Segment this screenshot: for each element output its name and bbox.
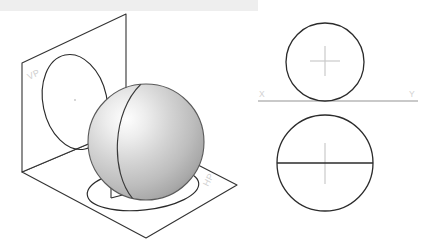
orthographic-projection-group: X Y (0, 0, 424, 252)
label-y-axis: Y (409, 89, 415, 99)
drawing-canvas: VP HP X Y (0, 0, 424, 252)
label-x-axis: X (259, 89, 265, 99)
